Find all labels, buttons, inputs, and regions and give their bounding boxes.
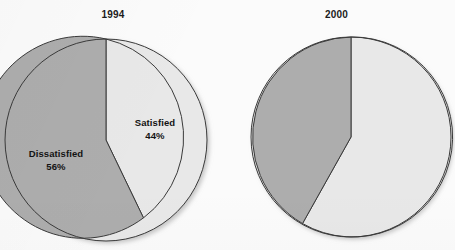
pie-chart-2000: 2000 Dissatisfied 42% Satisfied 58% <box>228 0 455 250</box>
pie-graphic-1994 <box>0 0 228 250</box>
pie-label-satisfied-text-1994: Satisfied <box>135 117 176 128</box>
pie-label-satisfied-percent-1994: 44% <box>118 130 192 143</box>
pie-chart-1994: 1994 Satisfied 44% Dissatisfied 56% <box>0 0 228 250</box>
pie-label-dissatisfied-1994: Dissatisfied 56% <box>10 148 102 173</box>
pie-label-satisfied-1994: Satisfied 44% <box>118 117 192 142</box>
pie-label-dissatisfied-percent-1994: 56% <box>10 161 102 174</box>
pie-chart-figure: 1994 Satisfied 44% Dissatisfied 56% <box>0 0 455 250</box>
pie-label-dissatisfied-text-1994: Dissatisfied <box>29 148 84 159</box>
pie-graphic-2000 <box>228 0 455 250</box>
